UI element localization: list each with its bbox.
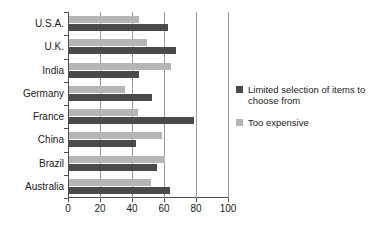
y-axis-label-australia: Australia [2,181,64,192]
legend-swatch-icon [236,119,243,126]
bar-limited-selection [69,117,194,124]
x-tick-mark-80 [196,198,197,202]
bar-too-expensive [69,179,151,186]
bar-too-expensive [69,109,138,116]
bar-too-expensive [69,63,171,70]
bar-too-expensive [69,16,139,23]
legend-item[interactable]: Too expensive [236,117,381,128]
legend-swatch-icon [236,86,243,93]
legend-item-label: Limited selection of items to choose fro… [248,84,376,106]
x-tick-label-80: 80 [183,203,209,215]
bar-too-expensive [69,39,147,46]
bar-group [69,39,228,54]
y-axis-label-usa: U.S.A. [2,18,64,29]
gridline-100 [228,12,229,198]
x-tick-mark-40 [132,198,133,202]
bar-group [69,86,228,101]
bar-too-expensive [69,132,162,139]
bar-limited-selection [69,164,157,171]
bar-group [69,179,228,194]
bar-too-expensive [69,156,165,163]
bar-chart: U.S.A.U.K.IndiaGermanyFranceChinaBrazilA… [0,0,383,228]
bar-group [69,63,228,78]
x-tick-mark-100 [228,198,229,202]
legend-item[interactable]: Limited selection of items to choose fro… [236,84,381,106]
x-tick-mark-0 [68,198,69,202]
y-axis-label-china: China [2,134,64,145]
bar-limited-selection [69,94,152,101]
legend-item-label: Too expensive [248,117,309,128]
bar-group [69,132,228,147]
plot-area [68,12,228,198]
y-axis-label-india: India [2,65,64,76]
y-axis-category-labels: U.S.A.U.K.IndiaGermanyFranceChinaBrazilA… [0,12,64,198]
x-axis: 020406080100 [68,198,229,222]
x-tick-mark-60 [164,198,165,202]
y-axis-label-france: France [2,111,64,122]
chart-legend: Limited selection of items to choose fro… [236,84,381,139]
bar-group [69,109,228,124]
bar-limited-selection [69,187,170,194]
x-tick-label-60: 60 [151,203,177,215]
y-axis-label-uk: U.K. [2,41,64,52]
bar-group [69,16,228,31]
bar-limited-selection [69,24,168,31]
x-tick-label-0: 0 [55,203,81,215]
x-tick-label-100: 100 [215,203,241,215]
x-tick-label-40: 40 [119,203,145,215]
x-tick-mark-20 [100,198,101,202]
y-axis-label-brazil: Brazil [2,158,64,169]
bar-group [69,156,228,171]
bar-limited-selection [69,140,136,147]
bar-limited-selection [69,71,139,78]
bar-too-expensive [69,86,125,93]
bar-limited-selection [69,47,176,54]
x-tick-label-20: 20 [87,203,113,215]
y-axis-label-germany: Germany [2,88,64,99]
